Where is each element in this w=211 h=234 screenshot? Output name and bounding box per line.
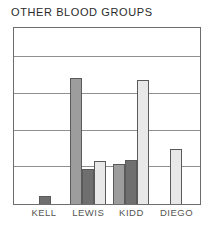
- x-axis-labels: KELLLEWISKIDDDIEGO: [13, 207, 201, 225]
- bar-group-diego: [170, 28, 182, 204]
- xtick-label-kidd: KIDD: [119, 207, 144, 218]
- bar-lewis-medium: [70, 78, 82, 204]
- bar-kidd-medium: [113, 164, 125, 204]
- bars-layer: [14, 28, 200, 204]
- bar-group-kidd: [113, 28, 149, 204]
- chart-figure: OTHER BLOOD GROUPS KELLLEWISKIDDDIEGO: [0, 0, 211, 234]
- page-title: OTHER BLOOD GROUPS: [11, 6, 153, 18]
- bar-diego-light: [170, 149, 182, 204]
- bar-kidd-dark: [125, 160, 137, 204]
- bar-kell-dark: [39, 196, 51, 204]
- xtick-label-diego: DIEGO: [160, 207, 193, 218]
- bar-group-kell: [39, 28, 51, 204]
- bar-lewis-light: [94, 161, 106, 204]
- bar-kidd-light: [137, 80, 149, 204]
- xtick-label-kell: KELL: [31, 207, 56, 218]
- bar-group-lewis: [70, 28, 106, 204]
- plot-area: [13, 27, 201, 205]
- xtick-label-lewis: LEWIS: [72, 207, 104, 218]
- bar-lewis-dark: [82, 169, 94, 204]
